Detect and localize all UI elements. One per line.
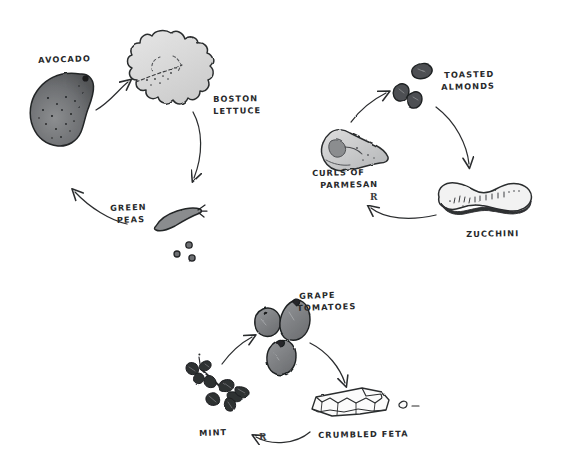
label-grape-tomatoes-line1: GRAPE	[299, 289, 357, 302]
arrow-avocado-to-lettuce	[96, 82, 128, 110]
arrow-mint-to-tomatoes	[222, 337, 252, 364]
avocado-illustration	[30, 73, 93, 146]
label-toasted-almonds-line1: TOASTED	[444, 69, 495, 81]
label-curls-of-parmesan-line2: PARMESAN	[320, 179, 378, 191]
arrow-zucchini-to-parmesan	[371, 208, 436, 218]
label-grape-tomatoes-line2: TOMATOES	[297, 301, 357, 314]
arrow-mark-parmesan: R	[370, 192, 377, 202]
label-zucchini: ZUCCHINI	[466, 228, 519, 240]
label-curls-of-parmesan: CURLS OF PARMESAN	[312, 168, 378, 191]
mint-illustration	[186, 353, 249, 411]
label-toasted-almonds: TOASTED ALMONDS	[444, 70, 495, 93]
arrow-parmesan-to-almonds	[351, 93, 386, 122]
label-curls-of-parmesan-line1: CURLS OF	[312, 167, 378, 179]
label-boston-lettuce-line2: LETTUCE	[213, 105, 261, 117]
curls-of-parmesan-illustration	[321, 130, 388, 171]
green-peas-illustration	[155, 205, 208, 261]
label-boston-lettuce-line1: BOSTON	[213, 93, 261, 105]
label-avocado: AVOCADO	[38, 53, 91, 66]
arrow-almonds-to-zucchini	[436, 107, 469, 164]
label-toasted-almonds-line2: ALMONDS	[441, 81, 495, 93]
arrow-lettuce-to-peas	[193, 112, 201, 178]
arrow-mark-feta: R	[259, 432, 266, 442]
label-green-peas-line2: PEAS	[115, 214, 147, 226]
label-grape-tomatoes: GRAPE TOMATOES	[299, 291, 356, 314]
diagram-canvas: AVOCADO BOSTON LETTUCE GREEN PEAS TOASTE…	[0, 0, 564, 469]
label-mint: MINT	[199, 427, 227, 439]
zucchini-illustration	[439, 183, 532, 215]
label-green-peas: GREEN PEAS	[110, 203, 147, 226]
crumbled-feta-illustration	[312, 388, 419, 416]
label-boston-lettuce: BOSTON LETTUCE	[213, 94, 261, 117]
arrow-tomatoes-to-feta	[310, 343, 345, 383]
toasted-almonds-illustration	[393, 63, 432, 108]
label-green-peas-line1: GREEN	[110, 202, 147, 214]
boston-lettuce-illustration	[128, 31, 214, 104]
label-crumbled-feta: CRUMBLED FETA	[318, 428, 409, 441]
